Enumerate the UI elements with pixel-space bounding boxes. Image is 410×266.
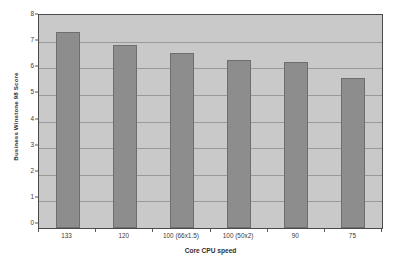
y-axis-tick-labels: 012345678 (20, 12, 34, 230)
y-axis-tick-label: 4 (20, 115, 34, 121)
x-axis-tick-mark (152, 229, 153, 232)
y-axis-tick-label: 7 (20, 37, 34, 43)
x-axis-tick-mark (267, 229, 268, 232)
bar (227, 60, 251, 228)
y-axis-tick-label: 8 (20, 11, 34, 17)
x-axis-tick-mark (95, 229, 96, 232)
gridline (39, 68, 382, 69)
gridline (39, 122, 382, 123)
gridline (39, 95, 382, 96)
gridline (39, 148, 382, 149)
bar (170, 53, 194, 228)
gridline (39, 175, 382, 176)
x-axis-tick-label: 100 (50x2) (223, 233, 254, 239)
x-axis-tick-label: 120 (118, 233, 129, 239)
x-axis-tick-mark (381, 229, 382, 232)
x-axis-title: Core CPU speed (38, 248, 383, 255)
y-axis-tick-label: 5 (20, 89, 34, 95)
y-axis-tick-label: 1 (20, 194, 34, 200)
plot-area (38, 14, 383, 229)
bar (284, 62, 308, 228)
y-axis-tick-label: 6 (20, 63, 34, 69)
x-axis-tick-mark (324, 229, 325, 232)
x-axis-tick-mark (210, 229, 211, 232)
bar (56, 32, 80, 228)
y-axis-tick-label: 3 (20, 141, 34, 147)
x-axis-tick-label: 133 (61, 233, 72, 239)
x-axis-tick-label: 100 (66x1.5) (163, 233, 199, 239)
x-axis-tick-label: 75 (349, 233, 356, 239)
bar (113, 45, 137, 228)
x-axis-tick-labels: 133120100 (66x1.5)100 (50x2)9075 (38, 233, 383, 245)
gridline (39, 201, 382, 202)
x-axis-tick-label: 90 (292, 233, 299, 239)
y-axis-title-label: Business Winstone 98 Score (12, 72, 19, 160)
y-axis-tick-label: 0 (20, 220, 34, 226)
y-axis-tick-label: 2 (20, 168, 34, 174)
bar-chart-figure: Business Winstone 98 Score 012345678 133… (0, 0, 410, 266)
x-axis-tick-mark (38, 229, 39, 232)
bar (341, 78, 365, 228)
gridline (39, 42, 382, 43)
